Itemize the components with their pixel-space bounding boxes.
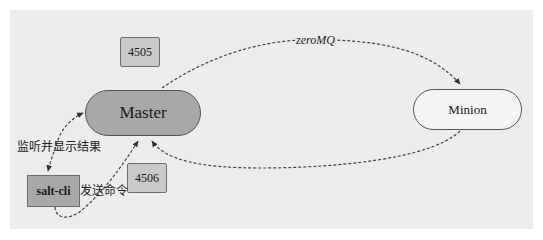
master-node: Master [85, 90, 201, 136]
port-4506-label: 4506 [135, 171, 159, 186]
salt-cli-label: salt-cli [37, 184, 71, 199]
port-4506-box: 4506 [127, 163, 167, 193]
listen-display-results-label: 监听并显示结果 [17, 137, 101, 154]
port-4505-label: 4505 [128, 45, 152, 60]
minion-label: Minion [448, 102, 486, 118]
port-4505-box: 4505 [120, 37, 160, 67]
minion-node: Minion [413, 89, 522, 130]
send-command-label: 发送命令 [80, 181, 128, 198]
master-label: Master [119, 103, 166, 123]
salt-cli-node: salt-cli [27, 175, 80, 207]
zeromq-edge-label: zeroMQ [295, 33, 336, 48]
